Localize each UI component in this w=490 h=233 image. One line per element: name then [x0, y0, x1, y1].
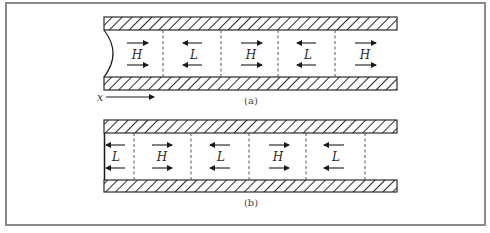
- x-axis-label: x: [97, 91, 104, 104]
- cell-label: L: [111, 150, 120, 164]
- cell-label: H: [156, 150, 168, 164]
- cell-label: L: [216, 150, 225, 164]
- cell-label: H: [131, 48, 143, 62]
- cell-label: H: [245, 48, 257, 62]
- bottom-wall-a: [104, 77, 397, 90]
- cell-label: H: [359, 48, 371, 62]
- caption-a: (a): [244, 95, 258, 106]
- channel-flow-diagram: H L H L H x (a): [0, 0, 490, 233]
- bottom-wall-b: [104, 180, 397, 192]
- cell-label: L: [189, 48, 198, 62]
- top-wall-b: [104, 120, 397, 133]
- top-wall-a: [104, 17, 397, 30]
- cell-label: L: [303, 48, 312, 62]
- cell-label: L: [331, 150, 340, 164]
- cell-label: H: [272, 150, 284, 164]
- caption-b: (b): [244, 197, 258, 208]
